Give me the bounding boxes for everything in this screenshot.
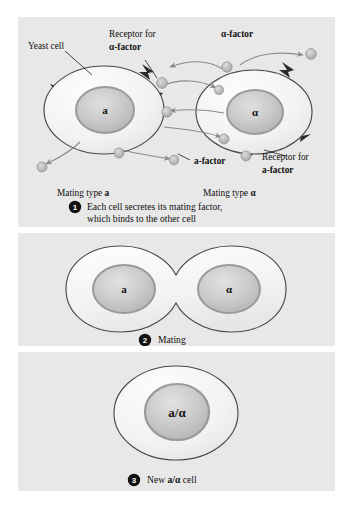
- nucleus-label-alpha: α: [252, 106, 259, 118]
- panel-mating: a α 2 Mating: [18, 233, 335, 346]
- label-mating-type-alpha: Mating type α: [203, 188, 257, 198]
- caption-1-line-2: which binds to the other cell: [87, 213, 196, 224]
- label-a-factor: a-factor: [194, 156, 226, 166]
- caption-2: Mating: [158, 334, 186, 345]
- label-receptor-a-line1: Receptor for: [262, 152, 310, 162]
- caption-1-line-1: Each cell secretes its mating factor,: [87, 201, 222, 212]
- caption-3: New a/α cell: [147, 474, 197, 485]
- cell-alpha-group: α: [196, 62, 312, 157]
- nucleus-label-a: a: [102, 104, 108, 116]
- yeast-mating-figure: a α: [0, 0, 349, 508]
- nucleus-label-alpha: α: [226, 283, 233, 295]
- nucleus-label-a-alpha: a/α: [168, 405, 186, 420]
- step-number-3: 3: [132, 476, 137, 485]
- step-number-2: 2: [143, 336, 148, 345]
- panel-new-cell: a/α 3 New a/α cell: [18, 352, 335, 491]
- nucleus-label-a: a: [121, 283, 127, 295]
- panel-secretion: a α: [18, 17, 335, 227]
- label-receptor-alpha-line1: Receptor for: [109, 29, 157, 39]
- label-receptor-a-line2: a-factor: [262, 165, 294, 175]
- label-receptor-alpha-line2: α-factor: [109, 42, 141, 52]
- label-yeast-cell: Yeast cell: [28, 41, 64, 51]
- label-alpha-factor: α-factor: [221, 29, 253, 39]
- label-mating-type-a: Mating type a: [57, 188, 110, 198]
- cell-a-group: a: [44, 64, 164, 154]
- step-number-1: 1: [73, 203, 78, 212]
